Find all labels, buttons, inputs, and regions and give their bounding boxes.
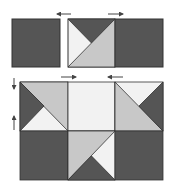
- top-left-dark-square: [12, 19, 60, 67]
- quilt-diagram: [0, 0, 171, 192]
- cell-bottom-center: [68, 131, 115, 180]
- cell-top-left: [20, 82, 68, 131]
- cell-bottom-left: [20, 131, 68, 180]
- cell-bottom-right: [115, 131, 163, 180]
- cell-top-right: [115, 82, 163, 131]
- top-row: [12, 19, 163, 67]
- bottom-block: [20, 82, 163, 180]
- cell-top-center: [68, 82, 115, 131]
- top-right-dark-square: [115, 19, 163, 67]
- top-middle-unit: [68, 19, 115, 67]
